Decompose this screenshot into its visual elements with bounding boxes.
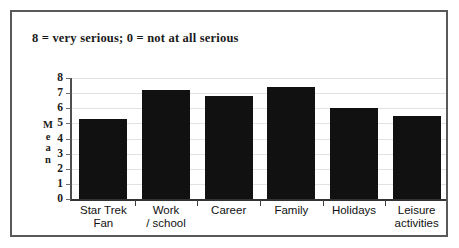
x-axis-category-line: / school bbox=[135, 217, 198, 230]
bar bbox=[330, 108, 378, 199]
x-axis-category-line: Career bbox=[197, 204, 260, 217]
y-axis-tick-label: 6 bbox=[57, 103, 63, 115]
bar bbox=[393, 116, 441, 199]
y-axis-tick-mark bbox=[66, 154, 71, 155]
gridline bbox=[72, 93, 446, 94]
y-axis-label-letter: e bbox=[42, 131, 54, 143]
x-axis-category-label: Star TrekFan bbox=[72, 204, 135, 230]
bar bbox=[205, 96, 253, 199]
y-axis-tick-label: 7 bbox=[57, 87, 63, 99]
y-axis-label-letter: n bbox=[42, 154, 54, 166]
y-axis-tick-label: 1 bbox=[57, 178, 63, 190]
x-axis-category-label: Holidays bbox=[323, 204, 386, 217]
y-axis-tick-mark bbox=[66, 93, 71, 94]
y-axis-tick-mark bbox=[66, 108, 71, 109]
x-axis-category-label: Work/ school bbox=[135, 204, 198, 230]
x-axis-category-label: Family bbox=[260, 204, 323, 217]
x-axis-category-line: Holidays bbox=[323, 204, 386, 217]
gridline bbox=[72, 169, 446, 170]
y-axis-tick-label: 8 bbox=[57, 72, 63, 84]
y-axis-tick-mark bbox=[66, 78, 71, 79]
x-axis-category-line: Star Trek bbox=[72, 204, 135, 217]
gridline bbox=[72, 154, 446, 155]
bar bbox=[142, 90, 190, 199]
bar bbox=[79, 119, 127, 199]
x-axis-category-line: Fan bbox=[72, 217, 135, 230]
chart-caption: 8 = very serious; 0 = not at all serious bbox=[32, 31, 239, 46]
x-axis-category-line: Family bbox=[260, 204, 323, 217]
y-axis-tick-mark bbox=[66, 184, 71, 185]
y-axis-label: M e a n bbox=[42, 119, 54, 165]
bar bbox=[267, 87, 315, 199]
y-axis-tick-mark bbox=[66, 169, 71, 170]
y-axis-tick-label: 5 bbox=[57, 118, 63, 130]
x-axis-category-line: activities bbox=[385, 217, 448, 230]
y-axis-tick-mark bbox=[66, 199, 71, 200]
y-axis-tick-mark bbox=[66, 139, 71, 140]
gridline bbox=[72, 108, 446, 109]
y-axis-tick-label: 2 bbox=[57, 163, 63, 175]
x-axis-category-label: Leisureactivities bbox=[385, 204, 448, 230]
gridline bbox=[72, 139, 446, 140]
y-axis-tick-label: 0 bbox=[57, 193, 63, 205]
gridline bbox=[72, 123, 446, 124]
y-axis-tick-label: 4 bbox=[57, 133, 63, 145]
y-axis-tick-label: 3 bbox=[57, 148, 63, 160]
y-axis-label-letter: a bbox=[42, 142, 54, 154]
gridline bbox=[72, 78, 446, 79]
x-axis-category-line: Work bbox=[135, 204, 198, 217]
gridline bbox=[72, 184, 446, 185]
x-axis-line bbox=[70, 199, 446, 201]
chart-figure: 8 = very serious; 0 = not at all serious… bbox=[10, 10, 448, 237]
x-axis-category-label: Career bbox=[197, 204, 260, 217]
y-axis-tick-mark bbox=[66, 123, 71, 124]
y-axis-label-letter: M bbox=[42, 119, 54, 131]
x-axis-category-line: Leisure bbox=[385, 204, 448, 217]
plot-area: 012345678 bbox=[70, 78, 446, 200]
